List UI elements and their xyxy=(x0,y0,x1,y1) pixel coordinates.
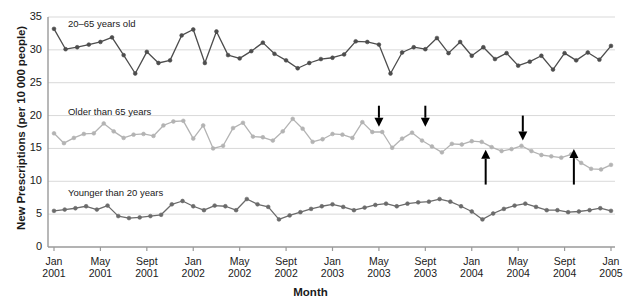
data-point xyxy=(566,210,570,214)
data-point xyxy=(491,212,495,216)
data-point xyxy=(447,51,451,55)
x-tick-month: Jan xyxy=(185,255,202,267)
data-point xyxy=(99,40,103,44)
data-point xyxy=(231,126,235,130)
data-point xyxy=(72,136,76,140)
data-point xyxy=(261,135,265,139)
data-point xyxy=(226,53,230,57)
data-point xyxy=(288,214,292,218)
data-point xyxy=(579,161,583,165)
data-point xyxy=(191,28,195,32)
x-axis-label: Month xyxy=(0,286,621,298)
data-point xyxy=(145,50,149,54)
data-point xyxy=(133,72,137,76)
data-point xyxy=(238,57,242,61)
data-point xyxy=(370,130,374,134)
data-point xyxy=(170,202,174,206)
data-point xyxy=(354,39,358,43)
data-point xyxy=(110,35,114,39)
data-point xyxy=(241,121,245,125)
y-tick-label: 15 xyxy=(16,141,42,153)
data-point xyxy=(470,139,474,143)
data-point xyxy=(373,203,377,207)
data-point xyxy=(470,54,474,58)
data-point xyxy=(266,205,270,209)
data-point xyxy=(435,36,439,40)
data-point xyxy=(516,64,520,68)
data-point xyxy=(168,58,172,62)
data-point xyxy=(321,137,325,141)
data-point xyxy=(112,129,116,133)
annotation-arrow-3 xyxy=(481,150,490,185)
data-point xyxy=(423,47,427,51)
data-point xyxy=(180,34,184,38)
data-point xyxy=(191,204,195,208)
data-point xyxy=(149,214,153,218)
data-point xyxy=(320,204,324,208)
x-tick-month: Jan xyxy=(463,255,480,267)
data-point xyxy=(261,41,265,45)
data-point xyxy=(395,204,399,208)
data-point xyxy=(350,136,354,140)
data-point xyxy=(609,209,613,213)
data-point xyxy=(52,131,56,135)
data-point xyxy=(342,53,346,57)
data-point xyxy=(599,168,603,172)
data-point xyxy=(256,202,260,206)
data-point xyxy=(234,208,238,212)
series-line-1 xyxy=(54,119,611,170)
x-tick-month: Sept xyxy=(275,255,297,267)
data-point xyxy=(481,45,485,49)
data-point xyxy=(74,206,78,210)
data-point xyxy=(132,133,136,137)
data-point xyxy=(191,137,195,141)
series-label-1: Older than 65 years xyxy=(68,106,151,117)
data-point xyxy=(406,202,410,206)
data-point xyxy=(480,140,484,144)
data-point xyxy=(551,68,555,72)
data-point xyxy=(87,43,91,47)
data-point xyxy=(448,200,452,204)
data-point xyxy=(502,207,506,211)
data-point xyxy=(215,30,219,34)
x-tick-month: Jan xyxy=(46,255,63,267)
y-tick-label: 30 xyxy=(16,43,42,55)
y-tick-label: 25 xyxy=(16,76,42,88)
data-point xyxy=(609,44,613,48)
data-point xyxy=(296,66,300,70)
data-point xyxy=(249,49,253,53)
y-tick-label: 20 xyxy=(16,109,42,121)
data-point xyxy=(311,140,315,144)
data-point xyxy=(122,136,126,140)
x-tick-month: May xyxy=(369,255,389,267)
data-point xyxy=(412,45,416,49)
data-point xyxy=(63,208,67,212)
series-line-2 xyxy=(54,199,611,219)
annotation-arrow-4 xyxy=(518,116,527,141)
data-point xyxy=(458,40,462,44)
data-point xyxy=(159,213,163,217)
data-point xyxy=(284,58,288,62)
data-point xyxy=(271,139,275,143)
data-point xyxy=(202,208,206,212)
data-point xyxy=(82,132,86,136)
data-point xyxy=(545,208,549,212)
x-tick-month: Jan xyxy=(603,255,620,267)
data-point xyxy=(539,153,543,157)
data-point xyxy=(291,117,295,121)
data-point xyxy=(390,146,394,150)
data-point xyxy=(138,216,142,220)
data-point xyxy=(221,144,225,148)
data-point xyxy=(307,61,311,65)
x-tick-month: Sept xyxy=(136,255,158,267)
data-point xyxy=(577,210,581,214)
data-point xyxy=(301,127,305,131)
data-point xyxy=(513,204,517,208)
x-tick-month: May xyxy=(90,255,110,267)
data-point xyxy=(363,206,367,210)
x-tick-label: Jan2005 xyxy=(583,255,627,279)
data-point xyxy=(500,149,504,153)
data-point xyxy=(319,57,323,61)
data-point xyxy=(609,163,613,167)
data-point xyxy=(559,156,563,160)
